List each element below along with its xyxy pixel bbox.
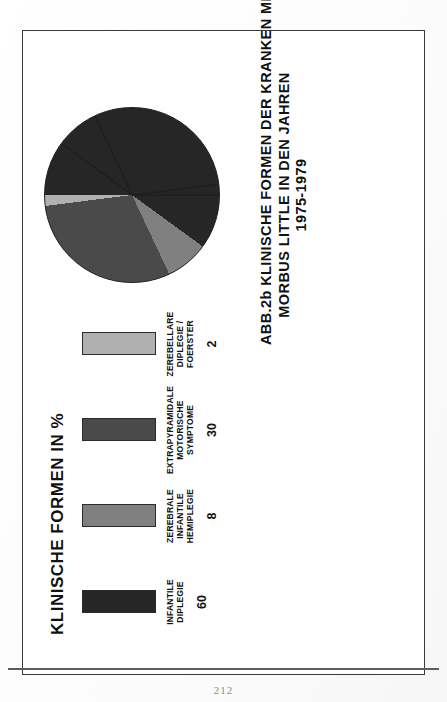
- caption-line-2: MORBUS LITTLE IN DEN JAHREN: [276, 45, 294, 345]
- legend-item-extrapyramidale-motorische-symptome: EXTRAPYRAMIDALEMOTORISCHE SYMPTOME 30: [82, 397, 219, 463]
- legend-item-value: 2: [205, 341, 219, 348]
- legend-item-label: INFANTILE DIPLEGIE: [165, 569, 185, 635]
- legend-swatch: [82, 505, 156, 528]
- page-rule: [8, 668, 439, 670]
- rotated-figure-container: KLINISCHE FORMEN IN % INFANTILE DIPLEGIE…: [22, 30, 425, 675]
- figure-content: KLINISCHE FORMEN IN % INFANTILE DIPLEGIE…: [22, 30, 425, 675]
- legend-item-zerebrale-infantile-hemiplegie: ZEREBRALEINFANTILE HEMIPLEGIE 8: [82, 483, 219, 549]
- legend-item-label: ZEREBELLAREDIPLEGIE / FOERSTER: [165, 311, 195, 377]
- legend-swatch: [82, 591, 156, 614]
- legend-item-label: EXTRAPYRAMIDALEMOTORISCHE SYMPTOME: [165, 386, 195, 474]
- pie-slice-divider: [61, 143, 132, 195]
- legend-items: INFANTILE DIPLEGIE 60 ZEREBRALEINFANTILE…: [82, 305, 219, 635]
- legend-swatch: [82, 419, 156, 442]
- legend-item-zerebellare-diplegie-foerster: ZEREBELLAREDIPLEGIE / FOERSTER 2: [82, 311, 219, 377]
- legend-title: KLINISCHE FORMEN IN %: [48, 305, 68, 635]
- legend-swatch: [82, 333, 156, 356]
- pie-chart: [44, 103, 224, 283]
- pie-slice-divider: [132, 194, 219, 195]
- pie-slices: [44, 107, 220, 283]
- caption-line-3: 1975-1979: [293, 45, 311, 345]
- figure-caption: ABB.2b KLINISCHE FORMEN DER KRANKEN MIT …: [258, 45, 311, 345]
- page-number: 212: [0, 684, 447, 696]
- legend-item-value: 8: [205, 513, 219, 520]
- legend-item-infantile-diplegie: INFANTILE DIPLEGIE 60: [82, 569, 209, 635]
- pie-slice-divider: [94, 116, 132, 195]
- legend-item-label: ZEREBRALEINFANTILE HEMIPLEGIE: [165, 483, 195, 549]
- legend-item-value: 30: [205, 423, 219, 437]
- figure-frame: KLINISCHE FORMEN IN % INFANTILE DIPLEGIE…: [22, 30, 425, 675]
- caption-line-1: ABB.2b KLINISCHE FORMEN DER KRANKEN MIT: [258, 45, 276, 345]
- legend-item-value: 60: [195, 595, 209, 609]
- legend: KLINISCHE FORMEN IN % INFANTILE DIPLEGIE…: [48, 305, 219, 635]
- scanned-page: KLINISCHE FORMEN IN % INFANTILE DIPLEGIE…: [0, 0, 447, 702]
